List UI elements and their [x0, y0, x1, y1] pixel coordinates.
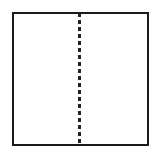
dashed-center-line [78, 13, 81, 144]
